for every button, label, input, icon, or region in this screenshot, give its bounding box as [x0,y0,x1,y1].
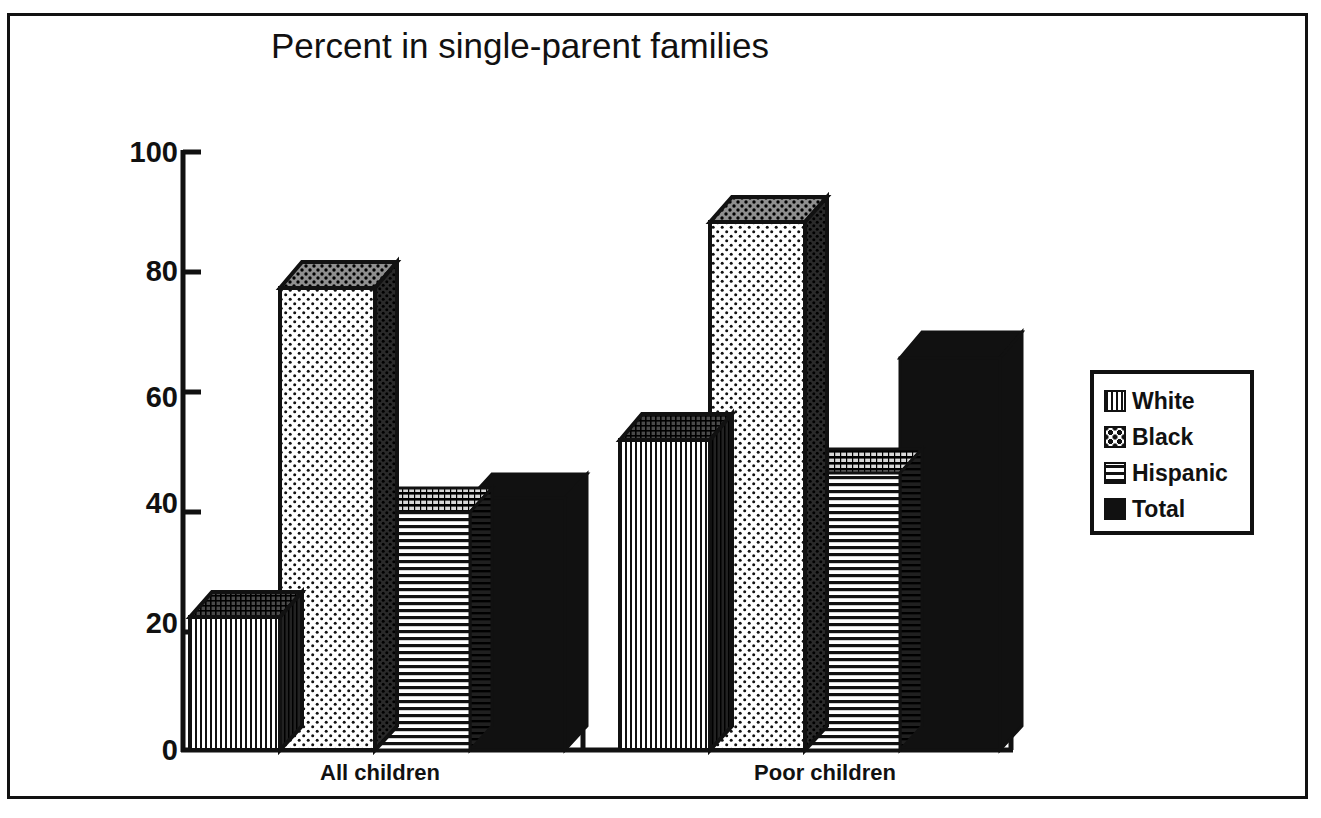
legend-label-white: White [1132,390,1195,413]
legend-item-white[interactable]: White [1104,383,1250,419]
legend-label-black: Black [1132,426,1193,449]
dots-swatch-icon [1104,426,1126,448]
chart-legend: White Black Hispanic Total [1090,370,1254,535]
category-label-all-children: All children [280,760,480,786]
legend-item-total[interactable]: Total [1104,491,1250,527]
solid-black-swatch-icon [1104,498,1126,520]
legend-item-hispanic[interactable]: Hispanic [1104,455,1250,491]
chart-page: Percent in single-parent families 100 80… [0,0,1321,818]
category-label-poor-children: Poor children [715,760,935,786]
bar-poor-children-white[interactable] [620,414,732,750]
legend-item-black[interactable]: Black [1104,419,1250,455]
legend-label-total: Total [1132,498,1185,521]
legend-label-hispanic: Hispanic [1132,462,1228,485]
vertical-lines-swatch-icon [1104,390,1126,412]
bar-all-children-white[interactable] [190,592,302,750]
horizontal-lines-swatch-icon [1104,462,1126,484]
